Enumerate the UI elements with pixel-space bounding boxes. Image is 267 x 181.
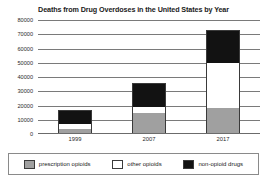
x-axis-tick-label-2017: 2017 bbox=[217, 136, 230, 142]
bar-segment-other-opioids[interactable] bbox=[206, 63, 240, 108]
bar-2007[interactable] bbox=[132, 83, 166, 133]
y-axis-tick-label: 80000 bbox=[17, 17, 33, 23]
legend-item-prescription[interactable]: prescription opioids bbox=[24, 160, 91, 169]
y-axis-tick-label: 60000 bbox=[17, 46, 33, 52]
bar-1999[interactable] bbox=[58, 110, 92, 133]
chart-title: Deaths from Drug Overdoses in the United… bbox=[0, 5, 267, 14]
legend-swatch-nonopioid bbox=[183, 160, 194, 169]
legend-item-other[interactable]: other opioids bbox=[112, 160, 161, 169]
bar-segment-non-opioid-drugs[interactable] bbox=[58, 110, 92, 124]
x-axis-tick-labels: 199920072017 bbox=[38, 136, 260, 148]
gridline bbox=[38, 20, 260, 21]
legend-label: other opioids bbox=[127, 161, 161, 167]
y-axis-tick-labels: 0100002000030000400005000060000700008000… bbox=[0, 20, 36, 134]
y-axis-tick-label: 40000 bbox=[17, 74, 33, 80]
y-axis-tick-label: 70000 bbox=[17, 31, 33, 37]
x-axis-tick-label-1999: 1999 bbox=[69, 136, 82, 142]
bar-segment-non-opioid-drugs[interactable] bbox=[132, 83, 166, 107]
legend-label: prescription opioids bbox=[39, 161, 91, 167]
bar-segment-prescription-opioids[interactable] bbox=[58, 129, 92, 133]
bar-segment-non-opioid-drugs[interactable] bbox=[206, 30, 240, 63]
y-axis-tick-label: 20000 bbox=[17, 103, 33, 109]
plot-area bbox=[38, 20, 260, 134]
y-axis-tick-label: 50000 bbox=[17, 60, 33, 66]
chart-figure: Deaths from Drug Overdoses in the United… bbox=[0, 0, 267, 181]
y-axis-tick-label: 30000 bbox=[17, 88, 33, 94]
y-axis-tick-label: 10000 bbox=[17, 117, 33, 123]
y-axis-tick-label: 0 bbox=[30, 131, 33, 137]
chart-legend: prescription opioidsother opioidsnon-opi… bbox=[8, 153, 259, 175]
bar-2017[interactable] bbox=[206, 30, 240, 133]
legend-label: non-opioid drugs bbox=[198, 161, 243, 167]
bar-segment-prescription-opioids[interactable] bbox=[132, 113, 166, 133]
bar-segment-prescription-opioids[interactable] bbox=[206, 108, 240, 133]
legend-swatch-prescription bbox=[24, 160, 35, 169]
legend-item-nonopioid[interactable]: non-opioid drugs bbox=[183, 160, 243, 169]
x-axis-tick-label-2007: 2007 bbox=[143, 136, 156, 142]
legend-swatch-other bbox=[112, 160, 123, 169]
